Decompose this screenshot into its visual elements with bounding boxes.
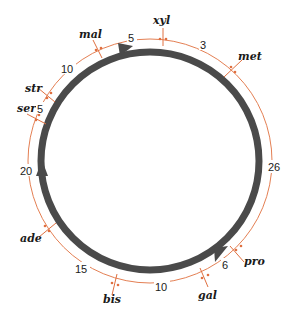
distance-label: 10 [155, 281, 167, 293]
gene-label: mal [79, 28, 102, 41]
distance-label: 5 [37, 103, 43, 115]
gene-label: gal [198, 289, 217, 302]
gene-label: met [238, 50, 262, 63]
gene-label: pro [244, 255, 265, 268]
gene-label: str [25, 82, 43, 95]
distance-label: 15 [75, 263, 87, 275]
distance-label: 10 [61, 63, 73, 75]
distance-label: 20 [20, 165, 32, 177]
distance-label: 26 [268, 161, 280, 173]
gene-label: bis [103, 293, 121, 306]
map-circle [28, 39, 272, 283]
distance-label: 6 [222, 259, 228, 271]
distance-label: 3 [200, 39, 206, 51]
gene-label: ade [20, 232, 42, 245]
gene-marker-met: met [224, 50, 262, 77]
gene-marker-str: str [25, 82, 55, 102]
gene-label: ser [17, 102, 37, 115]
distance-labels: 3 26 6 10 15 20 5 10 5 [19, 31, 283, 293]
gene-marker-gal: gal [198, 268, 217, 302]
gene-label: xyl [152, 14, 170, 27]
circular-gene-map: xyl met pro gal bis ade ser str mal [0, 0, 296, 315]
distance-label: 5 [128, 32, 134, 44]
chromosome-circle [41, 52, 259, 270]
gene-marker-mal: mal [79, 28, 102, 58]
gene-marker-xyl: xyl [152, 14, 170, 46]
gene-marker-ade: ade [20, 223, 56, 245]
